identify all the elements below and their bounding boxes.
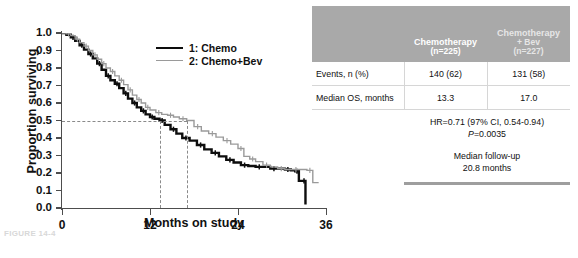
- legend-line-chemo-bev-icon: [156, 60, 183, 61]
- table-row: Median OS, months13.317.0: [312, 86, 570, 110]
- legend-item-chemo: 1: Chemo: [156, 41, 262, 54]
- results-table: Chemotherapy (n=225) Chemotherapy + Bev …: [312, 6, 570, 110]
- y-tick-label-0.7: 0.7: [22, 80, 52, 92]
- row-value-chemotherapy-bev: 131 (58): [487, 62, 570, 86]
- kaplan-meier-chart: Proportion surviving 0.00.10.20.30.40.50…: [0, 0, 336, 238]
- y-tick-label-0.9: 0.9: [22, 45, 52, 57]
- results-table-body: Events, n (%)140 (62)131 (58)Median OS, …: [312, 62, 570, 110]
- results-summary-panel: Chemotherapy (n=225) Chemotherapy + Bev …: [312, 6, 570, 185]
- y-tick-label-0.8: 0.8: [22, 62, 52, 74]
- y-tick-label-0.4: 0.4: [22, 132, 52, 144]
- p-value-number: =0.0035: [474, 129, 506, 139]
- legend-label-chemo: 1: Chemo: [189, 42, 237, 54]
- hazard-ratio-text: HR=0.71 (97% CI, 0.54-0.94): [404, 117, 570, 129]
- median-followup-value: 20.8 months: [404, 163, 570, 175]
- x-tick-12: [150, 209, 151, 215]
- row-value-chemotherapy-bev: 17.0: [487, 86, 570, 110]
- y-tick-label-0.3: 0.3: [22, 150, 52, 162]
- legend-item-chemo-bev: 2: Chemo+Bev: [156, 54, 262, 67]
- y-tick-label-0.0: 0.0: [22, 202, 52, 214]
- table-header-row: Chemotherapy (n=225) Chemotherapy + Bev …: [312, 6, 570, 62]
- x-tick-0: [62, 209, 63, 215]
- header-cell-blank: [312, 6, 404, 62]
- results-table-head: Chemotherapy (n=225) Chemotherapy + Bev …: [312, 6, 570, 62]
- row-value-chemotherapy: 140 (62): [404, 62, 487, 86]
- row-label-cell: Events, n (%): [312, 62, 404, 86]
- header-cell-chemotherapy-bev: Chemotherapy + Bev (n=227): [487, 6, 570, 62]
- figure-caption: FIGURE 14-4: [4, 229, 56, 238]
- x-axis-line: [61, 208, 327, 209]
- chart-legend: 1: Chemo 2: Chemo+Bev: [156, 41, 262, 67]
- header-bev-n: (n=227): [489, 47, 568, 57]
- median-followup-label: Median follow-up: [404, 151, 570, 163]
- row-label-cell: Median OS, months: [312, 86, 404, 110]
- y-tick-label-1.0: 1.0: [22, 27, 52, 39]
- y-tick-label-0.2: 0.2: [22, 167, 52, 179]
- median-followup-block: Median follow-up 20.8 months: [404, 151, 570, 175]
- statistics-block: HR=0.71 (97% CI, 0.54-0.94) P=0.0035: [404, 117, 570, 141]
- y-tick-label-0.5: 0.5: [22, 115, 52, 127]
- legend-label-chemo-bev: 2: Chemo+Bev: [189, 55, 262, 67]
- figure-root: Proportion surviving 0.00.10.20.30.40.50…: [0, 0, 578, 258]
- x-tick-36: [326, 209, 327, 215]
- row-value-chemotherapy: 13.3: [404, 86, 487, 110]
- y-tick-label-0.6: 0.6: [22, 97, 52, 109]
- y-tick-label-0.1: 0.1: [22, 185, 52, 197]
- header-cell-chemotherapy: Chemotherapy (n=225): [404, 6, 487, 62]
- legend-line-chemo-icon: [156, 47, 183, 49]
- p-value-text: P=0.0035: [404, 129, 570, 141]
- x-tick-24: [238, 209, 239, 215]
- x-axis-title: Months on study: [62, 216, 326, 230]
- header-chemo-n: (n=225): [406, 47, 485, 57]
- table-row: Events, n (%)140 (62)131 (58): [312, 62, 570, 86]
- bottom-rule-divider: [404, 182, 570, 185]
